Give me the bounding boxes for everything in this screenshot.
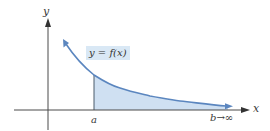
curve-right-arrow-icon: [225, 103, 233, 109]
x-axis-label: x: [253, 103, 259, 114]
x-axis-arrow-icon: [241, 107, 250, 113]
y-axis-arrow-icon: [45, 18, 51, 27]
improper-integral-figure: y x a b→∞ y = f(x): [0, 0, 270, 131]
lower-bound-label: a: [91, 115, 97, 125]
curve-label: y = f(x): [86, 46, 130, 60]
upper-bound-label: b→∞: [210, 113, 233, 123]
y-axis-label: y: [43, 6, 49, 17]
